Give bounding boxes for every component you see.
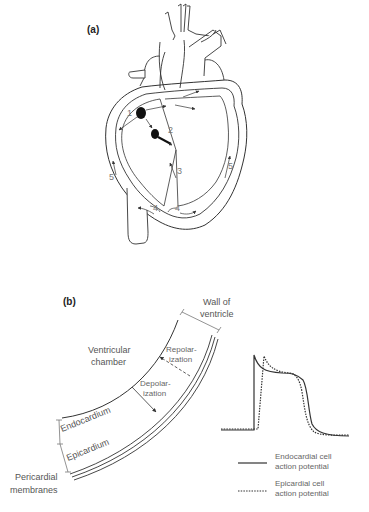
depol-label-2: ization [143, 389, 166, 398]
panel-b: (b) Wall of ventricle Ventricular chambe… [10, 296, 349, 498]
legend-epi-line2: action potential [275, 489, 329, 498]
wall-label-2: ventricle [200, 309, 234, 319]
chamber-label-2: chamber [91, 357, 126, 367]
endocardium-label: Endocardium [59, 405, 112, 434]
legend-endo-line1: Endocardial cell [275, 452, 332, 461]
epicardial-ap-curve [221, 356, 349, 435]
marker-3: 3 [177, 166, 182, 176]
marker-5-right: 5 [228, 161, 233, 171]
inferior-vessel [127, 188, 148, 244]
chamber-label-1: Ventricular [88, 345, 131, 355]
legend-endo-line2: action potential [275, 462, 329, 471]
depol-label-1: Depolar- [140, 379, 171, 388]
legend: Endocardial cell action potential Epicar… [238, 452, 332, 498]
repol-label-2: ization [169, 355, 192, 364]
marker-4-right: 4 [175, 203, 180, 213]
pericardial-label-1: Pericardial [15, 472, 58, 482]
legend-epi-line1: Epicardial cell [275, 479, 325, 488]
marker-2: 2 [168, 125, 173, 135]
his-bundle [158, 137, 171, 144]
endocardium-surface [62, 320, 178, 418]
panel-b-label: (b) [63, 296, 76, 307]
marker-5-left: 5 [109, 172, 114, 182]
epicardium-label: Epicardium [65, 437, 110, 463]
wall-label-1: Wall of [203, 297, 231, 307]
marker-4-left: 4 [153, 203, 158, 213]
pericardial-label-2: membranes [10, 485, 58, 495]
marker-1: 1 [127, 108, 132, 118]
diagram-canvas: (a) [0, 0, 369, 512]
great-vessels [129, 4, 226, 90]
action-potential-plot [221, 355, 349, 436]
sa-node [136, 107, 146, 119]
right-chamber [165, 96, 229, 206]
repol-label-1: Repolar- [166, 345, 197, 354]
endocardial-ap-curve [221, 355, 349, 436]
panel-a: (a) [87, 4, 247, 244]
panel-a-label: (a) [87, 24, 99, 35]
